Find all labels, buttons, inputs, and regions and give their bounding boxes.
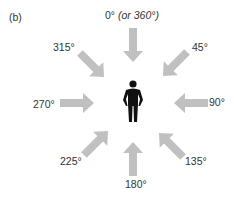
arrow-270-icon <box>60 93 94 113</box>
arrow-135-icon <box>152 126 190 164</box>
arrow-315-icon <box>73 46 111 84</box>
arrow-180-icon <box>123 142 143 176</box>
arrow-0-icon <box>123 28 143 62</box>
direction-diagram <box>0 0 234 197</box>
arrow-45-icon <box>156 45 194 83</box>
arrow-225-icon <box>77 124 115 162</box>
person-icon <box>123 80 143 122</box>
arrow-90-icon <box>174 93 208 113</box>
